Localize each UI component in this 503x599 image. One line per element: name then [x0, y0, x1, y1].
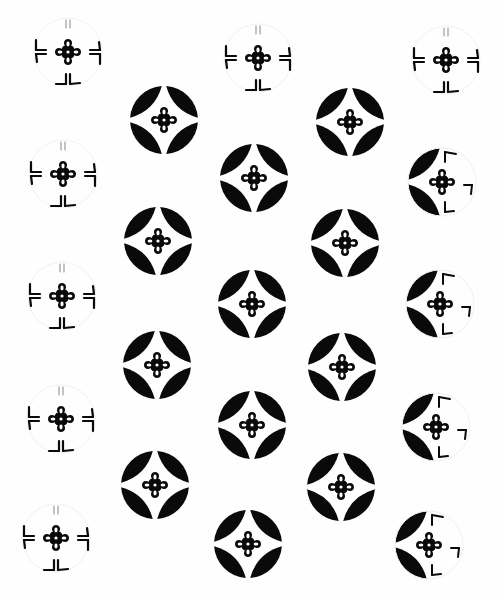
- crest-faded-icon: [29, 140, 97, 208]
- crest-full-icon: [220, 144, 288, 212]
- crest-full-icon: [124, 207, 192, 275]
- crest-full-icon: [218, 391, 286, 459]
- crest-full-icon: [307, 453, 375, 521]
- crest-full-icon: [311, 209, 379, 277]
- crest-full-icon: [316, 88, 384, 156]
- crest-faded-icon: [412, 26, 480, 94]
- crest-full-icon: [218, 270, 286, 338]
- pattern-canvas: [0, 0, 503, 599]
- crest-faded-icon: [34, 18, 102, 86]
- crest-full-icon: [130, 86, 198, 154]
- crest-pattern: [0, 0, 503, 599]
- crest-half-icon: [406, 270, 474, 338]
- crest-faded-icon: [27, 385, 95, 453]
- crest-faded-icon: [22, 504, 90, 572]
- crest-half-icon: [402, 393, 470, 461]
- crest-full-icon: [123, 331, 191, 399]
- crest-full-icon: [121, 451, 189, 519]
- crest-full-icon: [308, 333, 376, 401]
- crest-faded-icon: [224, 24, 292, 92]
- crest-half-icon: [395, 511, 463, 579]
- crest-full-icon: [214, 510, 282, 578]
- crest-half-icon: [408, 148, 476, 216]
- motif-layer: [22, 18, 480, 579]
- crest-faded-icon: [28, 262, 96, 330]
